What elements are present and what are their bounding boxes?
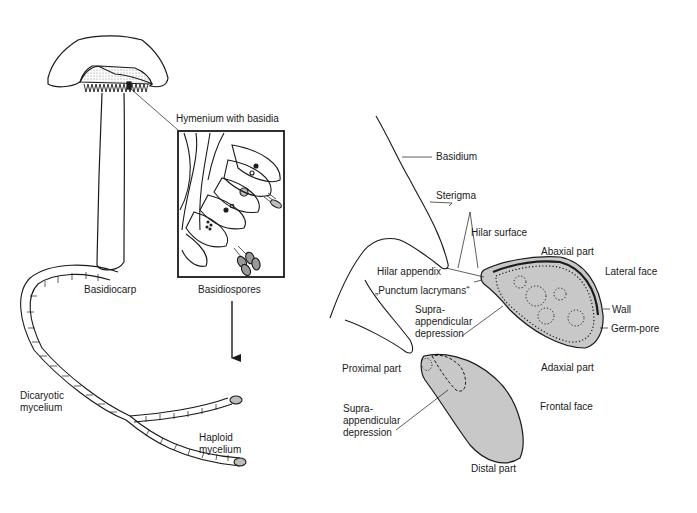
label-supra-appendicular-depression-lateral: Supra- appendicular depression bbox=[415, 304, 472, 340]
label-hilar-appendix: Hilar appendix bbox=[377, 266, 441, 278]
label-hilar-surface: Hilar surface bbox=[471, 227, 527, 239]
label-punctum-lacrymans: „Punctum lacrymans“ bbox=[375, 285, 469, 297]
label-haploid-line1: Haploid bbox=[199, 432, 241, 444]
label-supra2-line2: appendicular bbox=[343, 415, 400, 427]
label-sterigma: Sterigma bbox=[436, 190, 476, 202]
label-wall: Wall bbox=[612, 304, 631, 316]
label-basidiospores: Basidiospores bbox=[198, 284, 261, 296]
label-distal-part: Distal part bbox=[471, 463, 516, 475]
label-germ-pore: Germ-pore bbox=[611, 323, 659, 335]
label-abaxial-part: Abaxial part bbox=[541, 246, 594, 258]
label-hymenium-with-basidia: Hymenium with basidia bbox=[176, 113, 279, 125]
label-supra2-line1: Supra- bbox=[343, 403, 400, 415]
label-frontal-face: Frontal face bbox=[540, 401, 593, 413]
label-supra-appendicular-depression-frontal: Supra- appendicular depression bbox=[343, 403, 400, 439]
label-basidium: Basidium bbox=[436, 151, 477, 163]
label-supra1-line3: depression bbox=[415, 328, 472, 340]
label-dicaryotic-line1: Dicaryotic bbox=[20, 390, 64, 402]
label-dicaryotic-mycelium: Dicaryotic mycelium bbox=[20, 390, 64, 414]
label-supra1-line2: appendicular bbox=[415, 316, 472, 328]
label-dicaryotic-line2: mycelium bbox=[20, 402, 64, 414]
label-supra1-line1: Supra- bbox=[415, 304, 472, 316]
spore-frontal-view bbox=[396, 355, 523, 463]
label-basidiocarp: Basidiocarp bbox=[84, 284, 136, 296]
mushroom-basidiocarp bbox=[48, 36, 178, 270]
hymenium-sample-marker bbox=[127, 82, 131, 89]
label-lateral-face: Lateral face bbox=[605, 266, 657, 278]
label-haploid-line2: mycelium bbox=[199, 444, 241, 456]
label-adaxial-part: Adaxial part bbox=[541, 362, 594, 374]
label-haploid-mycelium: Haploid mycelium bbox=[199, 432, 241, 456]
hymenium-detail-box bbox=[178, 131, 284, 277]
label-proximal-part: Proximal part bbox=[342, 363, 401, 375]
label-supra2-line3: depression bbox=[343, 427, 400, 439]
